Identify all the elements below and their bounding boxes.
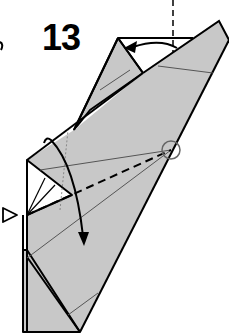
step-number: 13 <box>42 20 80 56</box>
diagram-canvas <box>0 0 229 336</box>
previous-step-arrow-icon <box>0 42 2 50</box>
origami-diagram: 13 <box>0 0 229 336</box>
push-arrow-icon <box>3 208 17 222</box>
rotate-arrow-icon <box>133 43 177 48</box>
